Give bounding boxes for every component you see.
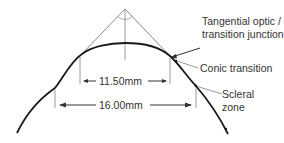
scleral-label-line2: zone <box>222 101 245 113</box>
outer-dimension-label: 16.00mm <box>99 99 143 111</box>
inner-dimension-label: 11.50mm <box>99 75 142 87</box>
right-tangent-line <box>125 9 170 56</box>
left-tangent-line <box>80 9 125 56</box>
scleral-label-line1: Scleral <box>222 88 254 100</box>
lens-diagram: Tangential optic / transition junction C… <box>0 0 284 143</box>
tangential-label-line1: Tangential optic / <box>202 15 281 27</box>
tangential-label-line2: transition junction <box>202 28 284 40</box>
conic-transition-label: Conic transition <box>200 62 272 74</box>
